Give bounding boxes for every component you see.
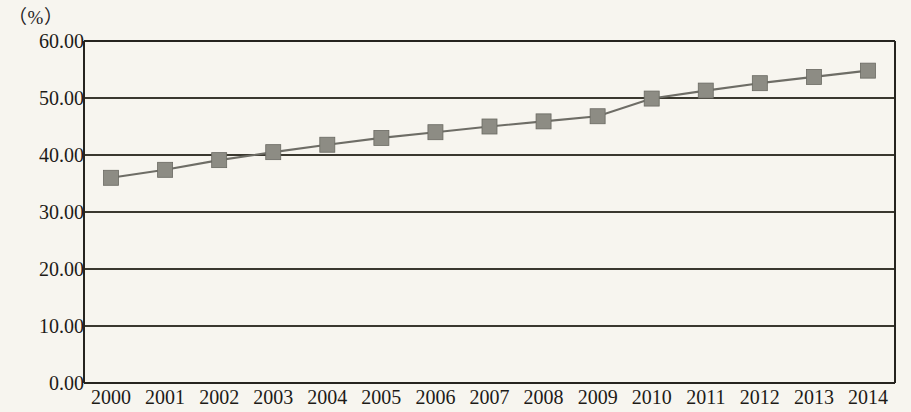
data-point-marker <box>590 109 605 124</box>
data-point-marker <box>374 130 389 145</box>
data-point-marker <box>104 170 119 185</box>
data-point-marker <box>806 69 821 84</box>
data-point-marker <box>212 153 227 168</box>
data-point-markers <box>104 63 876 185</box>
plot-area <box>0 0 911 412</box>
data-point-marker <box>860 63 875 78</box>
data-point-marker <box>698 83 713 98</box>
data-point-marker <box>482 119 497 134</box>
data-point-marker <box>644 91 659 106</box>
line-chart-figure: （%） 0.0010.0020.0030.0040.0050.0060.00 2… <box>0 0 911 412</box>
data-point-marker <box>752 76 767 91</box>
data-point-marker <box>266 145 281 160</box>
data-point-marker <box>536 114 551 129</box>
gridlines <box>84 41 895 326</box>
data-point-marker <box>158 162 173 177</box>
data-point-marker <box>320 137 335 152</box>
data-point-marker <box>428 125 443 140</box>
